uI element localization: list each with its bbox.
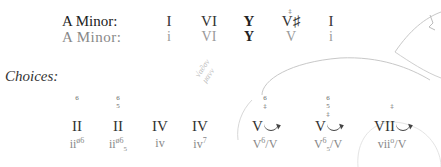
choice-lower-sup: 7 (203, 136, 207, 145)
figure-mid: ‡ (263, 102, 267, 110)
resolution-arrow-icon (327, 124, 341, 131)
figure-low: ‡ (326, 110, 330, 118)
choice-roman: V (252, 118, 263, 134)
choice-roman: IV (175, 118, 225, 136)
choice-lower-tail: /V (394, 137, 406, 151)
choice-v6-of-v[interactable]: 6‡ V V6/V (240, 94, 290, 152)
choice-lower-sup: ø6 (116, 136, 124, 145)
figure-top: 6 (75, 94, 79, 102)
choice-iv7[interactable]: IV iv7 (175, 94, 225, 152)
resolution-arrow-icon (396, 124, 410, 131)
choice-lower: iv (193, 137, 202, 151)
figure-top: 6 (263, 94, 267, 102)
row2-chord-5: i (316, 29, 346, 45)
choice-lower-tail: /V (265, 137, 277, 151)
choice-lower-sup: ø6 (76, 136, 84, 145)
row1-chord-1: I (154, 13, 184, 30)
row1-chord-3: Y (234, 13, 264, 30)
row2-chord-4: V (276, 29, 306, 45)
key-label-major: A Minor: (62, 13, 117, 30)
figure-mid: 5 (116, 102, 120, 110)
choice-lower-tail: /V (330, 137, 342, 151)
key-label-minor: A Minor: (62, 29, 121, 46)
choice-roman: VII (374, 118, 395, 134)
row2-chord-1: i (154, 29, 184, 45)
choice-viio-of-v[interactable]: ‡ VII viio/V (362, 94, 422, 152)
choice-lower: V (314, 137, 323, 151)
choice-lower: vii (378, 137, 391, 151)
figure-mid: ‡ (390, 102, 394, 110)
choice-lower-sup: 6 (323, 136, 327, 145)
choices-label: Choices: (5, 68, 58, 85)
figure-top: 6 (326, 94, 330, 102)
resolution-arrow-icon (264, 124, 278, 131)
choice-v65-of-v[interactable]: 65‡ V V65/V (303, 94, 353, 153)
choice-lower-sub: 5 (124, 145, 128, 153)
choice-lower: ii (109, 137, 116, 151)
row1-chord-2: VI (194, 13, 224, 30)
row1-chord-4: V♯ (276, 13, 306, 30)
figure-top: 6 (116, 94, 120, 102)
choice-roman: V (315, 118, 326, 134)
figure-mid: 5 (326, 102, 330, 110)
row1-chord-5: I (316, 13, 346, 30)
row2-chord-2: VI (194, 29, 224, 45)
row2-chord-3: Y (234, 29, 264, 45)
